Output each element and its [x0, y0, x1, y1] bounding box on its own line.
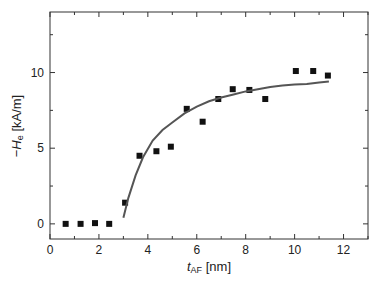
- x-tick-label: 8: [242, 243, 249, 257]
- data-point: [137, 153, 143, 159]
- y-tick-label: 0: [37, 217, 44, 231]
- x-tick-label: 12: [337, 243, 351, 257]
- data-point: [168, 144, 174, 150]
- data-point: [325, 73, 331, 79]
- x-tick-label: 10: [288, 243, 302, 257]
- y-tick-label: 10: [31, 66, 45, 80]
- data-point: [153, 148, 159, 154]
- x-tick-label: 2: [96, 243, 103, 257]
- x-axis-label: tAF [nm]: [187, 259, 231, 275]
- data-point: [293, 68, 299, 74]
- y-axis: 0510: [31, 35, 368, 231]
- data-point: [78, 221, 84, 227]
- data-point: [230, 86, 236, 92]
- x-tick-label: 4: [145, 243, 152, 257]
- x-tick-label: 0: [47, 243, 54, 257]
- plot-area: [50, 12, 368, 239]
- y-axis-label: −He [kA/m]: [9, 95, 25, 157]
- y-tick-label: 5: [37, 141, 44, 155]
- data-point: [92, 220, 98, 226]
- data-point: [262, 96, 268, 102]
- x-tick-label: 6: [193, 243, 200, 257]
- data-point: [310, 68, 316, 74]
- data-point: [63, 221, 69, 227]
- chart: 024681012 0510 tAF [nm] −He [kA/m]: [0, 0, 379, 285]
- data-point: [200, 119, 206, 125]
- plot-frame: [50, 12, 368, 239]
- data-point: [106, 221, 112, 227]
